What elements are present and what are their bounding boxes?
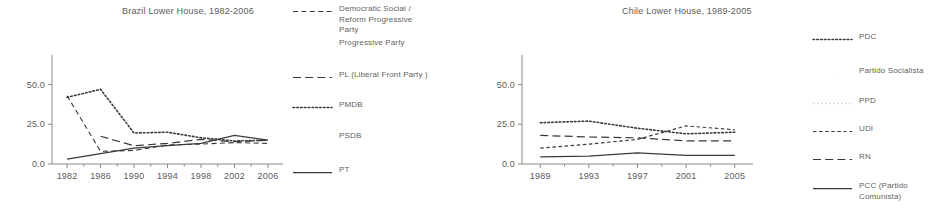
figure-root: Brazil Lower House, 1982-2006 0.025.050.…	[0, 0, 934, 214]
x-tick-label: 1990	[124, 171, 145, 181]
x-tick-label: 2006	[258, 171, 279, 181]
legend-item-pdc[interactable]: PDC	[812, 32, 934, 44]
legend-label: Progressive Party	[339, 38, 405, 49]
legend-item-psdb[interactable]: PSDB	[292, 131, 467, 143]
legend-line-swatch-none	[292, 134, 334, 143]
legend-line-swatch-dotted	[812, 35, 854, 44]
legend-line-swatch-solid	[292, 168, 334, 177]
legend-label: PMDB	[339, 100, 363, 111]
x-tick-label: 2002	[224, 171, 245, 181]
legend-item-rn[interactable]: RN	[812, 152, 934, 164]
legend-label: PSDB	[339, 131, 361, 142]
legend-item-pt[interactable]: PT	[292, 165, 467, 177]
y-tick-label: 0.0	[502, 159, 515, 169]
x-tick-label: 2005	[724, 171, 745, 181]
legend-line-swatch-dashed-medium	[292, 7, 334, 16]
x-tick-label: 1982	[57, 171, 78, 181]
plot-svg-brazil: 0.025.050.01982198619901994199820022006	[14, 48, 289, 188]
legend-line-swatch-dashed-long	[812, 155, 854, 164]
legend-line-swatch-dotted	[292, 103, 334, 112]
series-line	[67, 135, 268, 159]
legend-item-pmdb[interactable]: PMDB	[292, 100, 467, 112]
x-tick-label: 1989	[530, 171, 551, 181]
chart-panel-chile: Chile Lower House, 1989-2005 0.025.050.0…	[467, 0, 934, 214]
legend-line-swatch-none	[292, 41, 334, 50]
legend-line-swatch-faint	[812, 99, 854, 108]
y-tick-label: 25.0	[27, 119, 45, 129]
legend-item-ppd[interactable]: PPD	[812, 96, 934, 108]
chart-title-chile: Chile Lower House, 1989-2005	[622, 6, 752, 16]
legend-label: PT	[339, 165, 350, 176]
legend-item-progressive-party[interactable]: Progressive Party	[292, 38, 467, 50]
plot-svg-chile: 0.025.050.019891993199720012005	[484, 48, 759, 188]
plot-area-chile: 0.025.050.019891993199720012005	[484, 48, 759, 188]
legend-item-pcc[interactable]: PCC (Partido Comunista)	[812, 181, 934, 202]
series-line	[67, 89, 268, 141]
scan-artifact-1: ·	[837, 70, 839, 77]
y-tick-label: 25.0	[497, 119, 515, 129]
y-tick-label: 0.0	[32, 159, 45, 169]
series-line	[540, 153, 735, 157]
legend-item-udi[interactable]: UDI	[812, 124, 934, 136]
legend-line-swatch-dashed-long	[292, 73, 334, 82]
legend-item-pl[interactable]: PL (Liberal Front Party )	[292, 70, 467, 82]
x-tick-label: 1997	[627, 171, 648, 181]
chart-title-brazil: Brazil Lower House, 1982-2006	[122, 6, 254, 16]
legend-label: PDC	[859, 32, 876, 43]
legend-label: PPD	[859, 96, 876, 107]
legend-label: PCC (Partido Comunista)	[859, 181, 908, 202]
legend-chile: PDCPartido SocialistaPPDUDIRNPCC (Partid…	[812, 0, 934, 214]
legend-line-swatch-solid	[812, 184, 854, 193]
x-tick-label: 2001	[676, 171, 697, 181]
legend-line-swatch-none	[812, 69, 854, 78]
plot-area-brazil: 0.025.050.01982198619901994199820022006	[14, 48, 289, 188]
legend-label: RN	[859, 152, 871, 163]
legend-line-swatch-dashed-short	[812, 127, 854, 136]
x-tick-label: 1993	[578, 171, 599, 181]
series-line	[540, 135, 735, 141]
legend-item-partido-socialista[interactable]: Partido Socialista	[812, 66, 934, 78]
series-line	[540, 126, 735, 148]
y-tick-label: 50.0	[497, 80, 515, 90]
y-tick-label: 50.0	[27, 80, 45, 90]
legend-label: Partido Socialista	[859, 66, 924, 77]
chart-panel-brazil: Brazil Lower House, 1982-2006 0.025.050.…	[0, 0, 467, 214]
legend-label: PL (Liberal Front Party )	[339, 70, 428, 81]
legend-label: UDI	[859, 124, 873, 135]
legend-label: Democratic Social / Reform Progressive P…	[339, 4, 412, 36]
x-tick-label: 1994	[157, 171, 178, 181]
legend-item-pds[interactable]: Democratic Social / Reform Progressive P…	[292, 4, 467, 36]
legend-brazil: Democratic Social / Reform Progressive P…	[292, 0, 467, 214]
x-tick-label: 1986	[90, 171, 111, 181]
scan-artifact-2: ·	[845, 128, 847, 135]
x-tick-label: 1998	[191, 171, 212, 181]
